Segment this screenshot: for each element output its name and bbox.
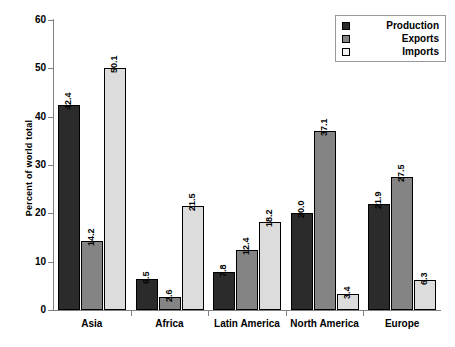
legend-label-exports: Exports bbox=[350, 33, 441, 44]
bar-latin-america-exports bbox=[236, 250, 258, 310]
x-axis-label-africa: Africa bbox=[131, 318, 209, 329]
bar-north-america-production bbox=[291, 213, 313, 310]
bar-asia-imports bbox=[104, 68, 126, 310]
x-axis-group-separator bbox=[131, 311, 132, 316]
bar-value-label: 14.2 bbox=[87, 229, 96, 247]
legend-swatch-imports-icon bbox=[342, 48, 350, 56]
bar-value-label: 50.1 bbox=[110, 55, 119, 73]
bar-value-label: 6.3 bbox=[420, 272, 429, 285]
bar-value-label: 21.5 bbox=[188, 194, 197, 212]
legend-label-imports: Imports bbox=[350, 46, 441, 57]
bar-latin-america-production bbox=[213, 272, 235, 310]
bar-latin-america-imports bbox=[259, 222, 281, 310]
bar-value-label: 37.1 bbox=[320, 118, 329, 136]
bar-value-label: 12.4 bbox=[242, 238, 251, 256]
bar-value-label: 20.0 bbox=[297, 201, 306, 219]
bar-chart: Percent of world total 0102030405060 42.… bbox=[0, 0, 455, 347]
x-axis-group-separator bbox=[286, 311, 287, 316]
bar-value-label: 21.9 bbox=[374, 192, 383, 210]
legend: Production Exports Imports bbox=[335, 15, 446, 62]
legend-swatch-production-icon bbox=[342, 22, 350, 30]
bar-europe-production bbox=[368, 204, 390, 310]
bar-europe-exports bbox=[391, 177, 413, 310]
legend-item-production[interactable]: Production bbox=[340, 19, 441, 32]
bar-africa-imports bbox=[182, 206, 204, 310]
x-axis-label-asia: Asia bbox=[53, 318, 131, 329]
bar-asia-exports bbox=[81, 241, 103, 310]
x-axis-group-separator bbox=[363, 311, 364, 316]
bar-asia-production bbox=[58, 105, 80, 310]
x-axis-label-north-america: North America bbox=[286, 318, 364, 329]
legend-item-exports[interactable]: Exports bbox=[340, 32, 441, 45]
bar-value-label: 42.4 bbox=[64, 93, 73, 111]
x-axis-group-separator bbox=[208, 311, 209, 316]
bar-value-label: 18.2 bbox=[265, 210, 274, 228]
bar-value-label: 7.8 bbox=[219, 265, 228, 278]
x-axis-label-europe: Europe bbox=[363, 318, 441, 329]
legend-swatch-exports-icon bbox=[342, 35, 350, 43]
bar-value-label: 3.4 bbox=[343, 286, 352, 299]
legend-item-imports[interactable]: Imports bbox=[340, 45, 441, 58]
bar-north-america-exports bbox=[314, 131, 336, 310]
x-axis-label-latin-america: Latin America bbox=[208, 318, 286, 329]
bar-value-label: 27.5 bbox=[397, 165, 406, 183]
bar-value-label: 6.5 bbox=[142, 271, 151, 284]
legend-label-production: Production bbox=[350, 20, 441, 31]
bar-value-label: 2.6 bbox=[165, 290, 174, 303]
